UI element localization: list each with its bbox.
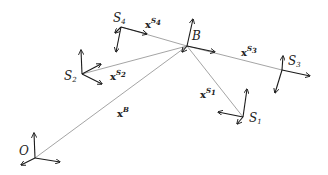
frame-S4-axes — [115, 27, 147, 52]
frame-label-S4: S4 — [113, 11, 126, 26]
vector-label-xS3: xS3 — [241, 44, 257, 58]
vector-label-xS2: xS2 — [110, 68, 126, 82]
frame-label-B: B — [191, 29, 201, 43]
frames-diagram: O B S1 S2 S3 S4 xB xS1 xS2 xS3 xS4 — [0, 0, 328, 175]
vector-xS1 — [187, 46, 243, 117]
vector-label-xS4: xS4 — [145, 16, 161, 30]
frame-S1-axes — [218, 89, 247, 124]
frame-label-O: O — [19, 144, 29, 158]
vector-label-xB: xB — [117, 105, 129, 119]
frame-label-S3: S3 — [288, 54, 301, 69]
vector-xS2 — [82, 46, 187, 74]
frame-S2-axes — [81, 50, 102, 84]
frame-label-S2: S2 — [64, 69, 77, 84]
frame-label-S1: S1 — [249, 111, 262, 126]
vector-xB — [35, 46, 187, 158]
vector-label-xS1: xS1 — [200, 86, 216, 100]
